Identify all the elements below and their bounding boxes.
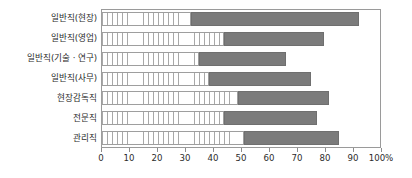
x-tick-mark (157, 148, 158, 152)
x-tick-label: 80 (320, 153, 331, 163)
bar-row[interactable] (101, 131, 381, 145)
bar-segment-hatched[interactable] (101, 12, 191, 26)
bar-segment-solid[interactable] (238, 91, 329, 105)
bar-segment-hatched[interactable] (101, 52, 199, 66)
bar-segment-solid[interactable] (199, 52, 286, 66)
x-tick-label: 10 (124, 153, 135, 163)
bar-segment-solid[interactable] (224, 111, 316, 125)
x-tick-label: 0 (98, 153, 103, 163)
x-tick-mark (241, 148, 242, 152)
x-tick-mark (269, 148, 270, 152)
category-label: 일반직(현장) (0, 13, 97, 23)
x-tick-mark (101, 148, 102, 152)
x-tick-mark (185, 148, 186, 152)
category-label: 전문직 (0, 113, 97, 123)
bar-row[interactable] (101, 32, 381, 46)
bar-segment-solid[interactable] (191, 12, 359, 26)
category-label: 일반직(영업) (0, 33, 97, 43)
bar-segment-hatched[interactable] (101, 32, 224, 46)
x-tick-mark (325, 148, 326, 152)
bar-segment-solid[interactable] (224, 32, 323, 46)
x-tick-label: 20 (152, 153, 163, 163)
bar-segment-solid[interactable] (209, 72, 311, 86)
x-tick-label: 40 (208, 153, 219, 163)
bar-segment-hatched[interactable] (101, 91, 238, 105)
bar-segment-hatched[interactable] (101, 131, 244, 145)
x-tick-label: 90 (348, 153, 359, 163)
category-axis-labels: 일반직(현장)일반직(영업)일반직(기술 · 연구)일반직(사무)현장감독직전문… (0, 9, 97, 148)
bar-segment-hatched[interactable] (101, 111, 224, 125)
bars-layer (101, 9, 381, 148)
x-tick-label: 60 (264, 153, 275, 163)
x-tick-mark (297, 148, 298, 152)
bar-row[interactable] (101, 91, 381, 105)
category-label: 현장감독직 (0, 93, 97, 103)
x-tick-mark (353, 148, 354, 152)
bar-segment-solid[interactable] (244, 131, 339, 145)
bar-row[interactable] (101, 111, 381, 125)
bar-row[interactable] (101, 72, 381, 86)
x-tick-mark (381, 148, 382, 152)
category-label: 일반직(사무) (0, 73, 97, 83)
x-tick-label: 70 (292, 153, 303, 163)
x-tick-label: 30 (180, 153, 191, 163)
chart-container: 일반직(현장)일반직(영업)일반직(기술 · 연구)일반직(사무)현장감독직전문… (0, 0, 412, 178)
x-tick-label: 50 (236, 153, 247, 163)
x-axis: 0102030405060708090100% (101, 148, 381, 174)
x-tick-mark (213, 148, 214, 152)
category-label: 일반직(기술 · 연구) (0, 53, 97, 63)
category-label: 관리직 (0, 133, 97, 143)
x-tick-label: 100% (369, 153, 394, 163)
x-tick-mark (129, 148, 130, 152)
bar-segment-hatched[interactable] (101, 72, 209, 86)
bar-row[interactable] (101, 52, 381, 66)
bar-row[interactable] (101, 12, 381, 26)
